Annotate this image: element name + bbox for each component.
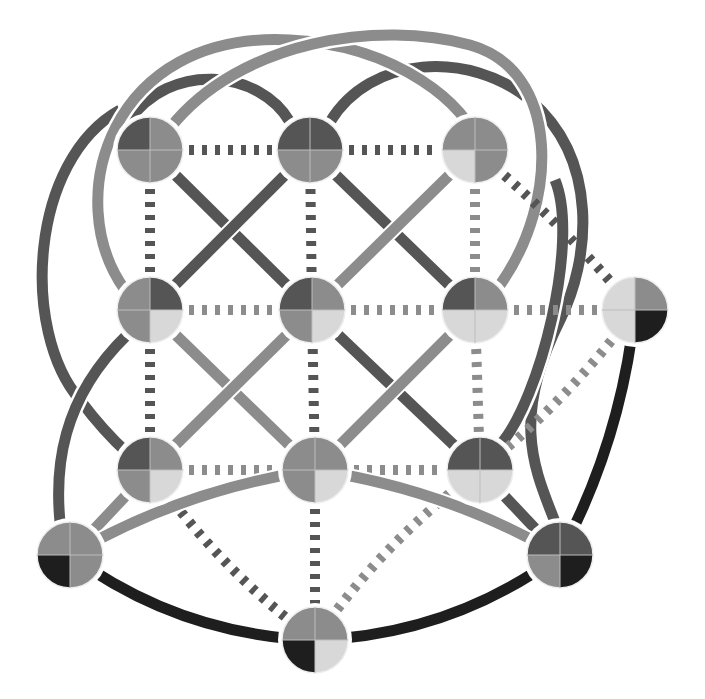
- edge-n13-n12: [315, 555, 560, 640]
- node-n9: [278, 433, 352, 507]
- node-n7: [598, 273, 672, 347]
- graph-canvas: [0, 0, 705, 699]
- node-n10: [443, 433, 517, 507]
- node-n4: [113, 273, 187, 347]
- edge-halo: [560, 310, 635, 555]
- node-n13: [278, 603, 352, 677]
- node-n8: [113, 433, 187, 507]
- node-n3: [438, 113, 512, 187]
- node-n6: [438, 273, 512, 347]
- node-n5: [275, 273, 349, 347]
- node-n11: [33, 518, 107, 592]
- node-n12: [523, 518, 597, 592]
- edge-halo: [70, 555, 315, 640]
- node-n2: [273, 113, 347, 187]
- edge-n11-n13: [70, 555, 315, 640]
- edge-halo: [315, 555, 560, 640]
- node-n1: [113, 113, 187, 187]
- network-diagram: [0, 0, 705, 699]
